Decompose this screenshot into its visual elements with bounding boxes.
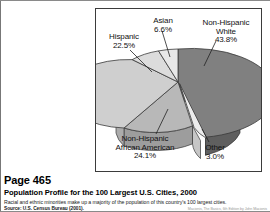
- pie-value-other: 3.0%: [191, 153, 239, 162]
- page-root: Non-Hispanic White 43.8% Asian 6.6% Hisp…: [0, 0, 270, 212]
- pie-label-asian-line1: Asian: [153, 16, 173, 25]
- pie-value-non-hispanic-white: 43.8%: [190, 36, 261, 45]
- pie-label-non-hispanic-white: Non-Hispanic White 43.8%: [190, 19, 261, 45]
- figure-frame: Non-Hispanic White 43.8% Asian 6.6% Hisp…: [95, 8, 262, 172]
- page-edge-left: [0, 0, 1, 212]
- page-edge-top: [0, 0, 270, 1]
- pie-label-hispanic-line1: Hispanic: [109, 32, 139, 41]
- caption-description: Racial and ethnic minorities make up a m…: [4, 199, 262, 206]
- page-number: Page 465: [4, 174, 262, 186]
- pie-label-other-line1: Other: [205, 143, 225, 152]
- pie-label-non-hispanic-african-american: Non-Hispanic African American 24.1%: [99, 135, 191, 161]
- pie-label-asian: Asian 6.6%: [140, 17, 186, 34]
- caption-title: Population Profile for the 100 Largest U…: [4, 188, 262, 197]
- pie-value-hispanic: 22.5%: [98, 42, 150, 51]
- pie-label-other: Other 3.0%: [191, 144, 239, 161]
- publisher-credit: Macionis, The Basics, 6th Edition by Joh…: [188, 207, 267, 211]
- pie-chart: Non-Hispanic White 43.8% Asian 6.6% Hisp…: [96, 9, 261, 171]
- pie-label-hispanic: Hispanic 22.5%: [98, 33, 150, 50]
- pie-value-non-hispanic-african-american: 24.1%: [99, 152, 191, 161]
